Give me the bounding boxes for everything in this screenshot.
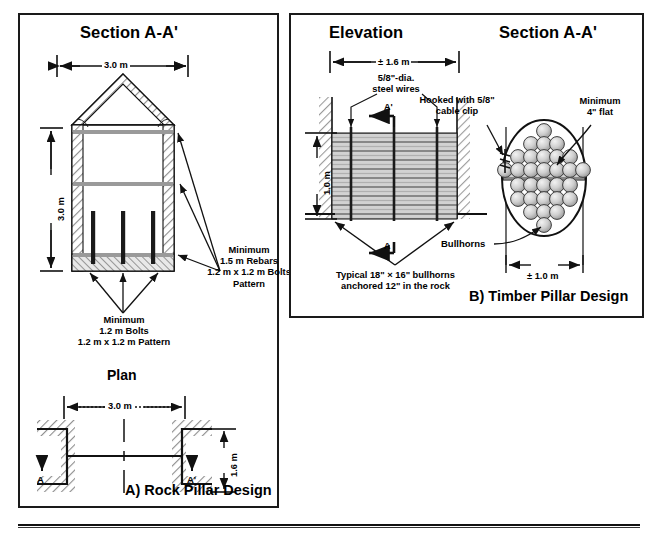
panel-rock-pillar-design: Section A-A' bbox=[18, 13, 279, 508]
note-minimum-flat: Minimum 4" flat bbox=[570, 96, 630, 118]
note-flat-line2: 4" flat bbox=[570, 107, 630, 118]
elevation-marker-a-prime: A' bbox=[384, 102, 393, 112]
note-cable-clip-line2: cable clip bbox=[415, 106, 499, 117]
note-rebars-line2: 1.5 m Rebars bbox=[203, 256, 295, 267]
dim-label-height-b: 1.0 m bbox=[322, 171, 332, 195]
note-wires-line1: 5/8"-dia. bbox=[363, 73, 429, 84]
note-minimum-rebars: Minimum 1.5 m Rebars 1.2 m x 1.2 m Bolts… bbox=[203, 245, 295, 290]
bottom-divider-rule-thin bbox=[18, 527, 640, 528]
note-bolts-line3: 1.2 m x 1.2 m Pattern bbox=[60, 337, 188, 348]
dim-label-top-width-a: 3.0 m bbox=[102, 60, 130, 70]
dim-label-top-width-b: ± 1.6 m bbox=[376, 57, 411, 67]
note-bullhorns-line2: anchored 12" in the rock bbox=[324, 281, 467, 292]
note-bolts-line2: 1.2 m Bolts bbox=[60, 326, 188, 337]
label-bullhorns: Bullhorns bbox=[441, 238, 485, 249]
note-bullhorns: Typical 18" × 16" bullhorns anchored 12"… bbox=[324, 270, 467, 292]
dim-label-plan-width: 3.0 m bbox=[106, 401, 134, 411]
note-rebars-line4: Pattern bbox=[203, 279, 295, 290]
panel-a-plan-title: Plan bbox=[107, 367, 137, 383]
leader-bolts bbox=[90, 273, 158, 313]
dim-label-height-a: 3.0 m bbox=[56, 197, 66, 221]
panel-b-caption: B) Timber Pillar Design bbox=[469, 288, 628, 304]
note-bullhorns-line1: Typical 18" × 16" bullhorns bbox=[324, 270, 467, 281]
note-cable-clip: Hooked with 5/8" cable clip bbox=[415, 95, 499, 117]
panel-a-caption: A) Rock Pillar Design bbox=[125, 482, 272, 498]
panel-timber-pillar-design: Elevation Section A-A' bbox=[289, 13, 644, 318]
note-cable-clip-line1: Hooked with 5/8" bbox=[415, 95, 499, 106]
note-flat-line1: Minimum bbox=[570, 96, 630, 107]
note-bolts-line1: Minimum bbox=[60, 315, 188, 326]
figure-root: Section A-A' bbox=[0, 0, 658, 539]
dim-label-plan-depth: 1.6 m bbox=[229, 453, 239, 477]
elevation-marker-a: A bbox=[384, 241, 391, 251]
note-rebars-line3: 1.2 m x 1.2 m Bolts bbox=[203, 267, 295, 278]
note-minimum-bolts: Minimum 1.2 m Bolts 1.2 m x 1.2 m Patter… bbox=[60, 315, 188, 349]
dim-label-bottom-width-b: ± 1.0 m bbox=[525, 271, 560, 281]
plan-marker-a: A bbox=[37, 474, 44, 485]
note-steel-wires: 5/8"-dia. steel wires bbox=[363, 73, 429, 95]
note-rebars-line1: Minimum bbox=[203, 245, 295, 256]
note-wires-line2: steel wires bbox=[363, 84, 429, 95]
bottom-divider-rule bbox=[18, 524, 640, 526]
